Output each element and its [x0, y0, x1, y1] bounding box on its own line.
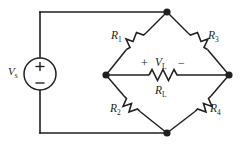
lead-r4-top [211, 75, 229, 96]
lead-r1-bottom [106, 50, 127, 76]
resistor-r2-symbol [123, 96, 140, 112]
node-right [225, 71, 232, 78]
resistor-r1-symbol [126, 33, 146, 50]
label-r4: R4 [210, 103, 221, 117]
circuit-schematic [0, 0, 245, 147]
node-top [163, 8, 170, 15]
node-left [102, 71, 109, 78]
label-source-voltage: Vs [8, 66, 18, 80]
lead-r3-bottom [208, 50, 230, 76]
resistor-r3-symbol [188, 33, 208, 50]
label-vl: VL [155, 57, 167, 71]
lead-r1-top [146, 12, 167, 33]
lead-r3-top [167, 12, 188, 33]
label-rl: RL [155, 85, 167, 99]
node-bottom [163, 129, 170, 136]
label-r2: R2 [110, 103, 121, 117]
lead-r2-bottom [140, 112, 167, 134]
label-vl-minus: − [178, 57, 185, 69]
wheatstone-bridge-figure: Vs R1 R3 R2 R4 + VL − RL [0, 0, 245, 147]
lead-r2-top [106, 75, 124, 96]
label-r1: R1 [111, 30, 122, 44]
label-vl-plus: + [141, 57, 148, 69]
label-r3: R3 [208, 30, 219, 44]
lead-r4-bottom [167, 112, 195, 134]
